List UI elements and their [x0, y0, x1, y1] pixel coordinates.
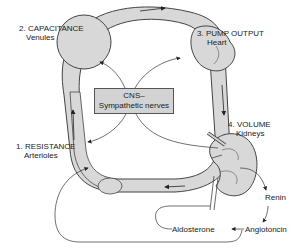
angiotensin-label: Angiotoncin	[245, 225, 287, 234]
resistance-subtitle: Arterioles	[24, 151, 58, 160]
capacitance-title: 2. CAPACITANCE	[19, 24, 84, 33]
capacitance-subtitle: Venules	[26, 33, 54, 42]
renin-label: Renin	[265, 193, 286, 202]
pump-subtitle: Heart	[207, 38, 227, 47]
cns-line2: Sympathetic nerves	[95, 101, 173, 111]
cns-line1: CNS–	[95, 91, 173, 101]
cns-box: CNS– Sympathetic nerves	[94, 88, 174, 114]
volume-subtitle: Kidneys	[236, 129, 264, 138]
volume-title: 4. VOLUME	[228, 120, 271, 129]
resistance-title: 1. RESISTANCE	[16, 142, 75, 151]
aldosterone-label: Aldosterone	[172, 225, 215, 234]
pump-title: 3. PUMP OUTPUT	[197, 29, 264, 38]
